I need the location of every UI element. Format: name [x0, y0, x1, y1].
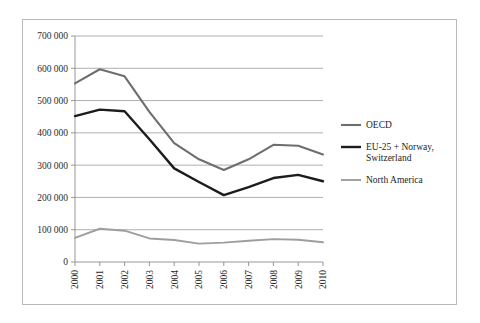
x-tick-label: 2002 — [120, 270, 130, 289]
gridlines — [75, 36, 323, 230]
x-tick-label: 2006 — [219, 270, 229, 289]
data-series — [75, 69, 323, 243]
x-tick-label: 2007 — [244, 270, 254, 289]
x-tick-label: 2003 — [145, 270, 155, 289]
y-tick-label: 200 000 — [37, 193, 68, 203]
y-axis-ticks — [71, 36, 75, 262]
x-tick-label: 2005 — [194, 270, 204, 289]
x-tick-label: 2009 — [294, 270, 304, 289]
x-tick-label: 2000 — [70, 270, 80, 289]
line-chart: 0100 000200 000300 000400 000500 000600 … — [0, 0, 480, 323]
legend-label-1-line2: Switzerland — [366, 153, 412, 163]
legend-label-0: OECD — [366, 120, 392, 130]
series-line-2 — [75, 229, 323, 244]
series-line-1 — [75, 110, 323, 196]
y-axis-tick-labels: 0100 000200 000300 000400 000500 000600 … — [37, 31, 68, 267]
x-tick-label: 2010 — [318, 270, 328, 289]
x-tick-label: 2008 — [269, 270, 279, 289]
y-tick-label: 400 000 — [37, 128, 68, 138]
chart-page: 0100 000200 000300 000400 000500 000600 … — [0, 0, 480, 323]
chart-legend: OECDEU-25 + Norway,SwitzerlandNorth Amer… — [341, 120, 434, 185]
x-axis-ticks — [75, 262, 323, 266]
y-tick-label: 700 000 — [37, 31, 68, 41]
legend-label-1: EU-25 + Norway, — [366, 142, 434, 152]
x-tick-label: 2004 — [170, 270, 180, 289]
y-tick-label: 500 000 — [37, 96, 68, 106]
y-tick-label: 300 000 — [37, 161, 68, 171]
y-tick-label: 600 000 — [37, 64, 68, 74]
y-tick-label: 100 000 — [37, 225, 68, 235]
x-tick-label: 2001 — [95, 270, 105, 289]
series-line-0 — [75, 69, 323, 170]
y-tick-label: 0 — [63, 257, 68, 267]
legend-label-2: North America — [366, 175, 424, 185]
x-axis-tick-labels: 2000200120022003200420052006200720082009… — [70, 270, 328, 289]
